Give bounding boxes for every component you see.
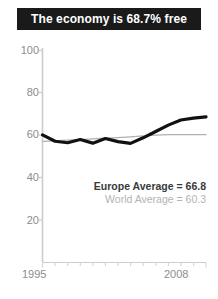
series-line-europe: [43, 117, 207, 144]
y-tick-label-100: 100: [0, 45, 39, 56]
x-tick-label-end: 2008: [164, 269, 188, 280]
annotation-world-average: World Average = 60.3: [0, 193, 206, 206]
y-tick-label-60: 60: [0, 129, 39, 140]
series-line-world: [43, 135, 207, 142]
annotation-europe-average: Europe Average = 66.8: [0, 180, 206, 193]
series-annotations: Europe Average = 66.8 World Average = 60…: [0, 180, 206, 206]
y-tick-label-80: 80: [0, 87, 39, 98]
x-tick-label-start: 1995: [22, 269, 46, 280]
x-axis-ticks: [43, 263, 207, 268]
y-tick-label-20: 20: [0, 215, 39, 226]
economy-freedom-chart-card: The economy is 68.7% free: [0, 0, 218, 299]
plot-area: 100 80 60 40 20 1995 2008 Europe Average…: [0, 0, 218, 299]
